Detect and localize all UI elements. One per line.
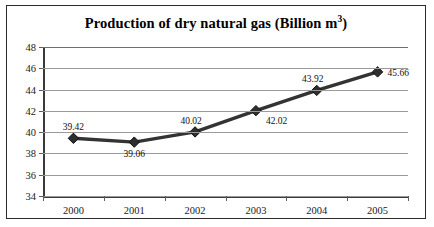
data-label-2002: 40.02 <box>180 116 201 126</box>
gridline-38 <box>43 153 408 154</box>
data-point-marker <box>68 133 78 143</box>
y-axis-label-40: 40 <box>26 127 37 138</box>
x-axis-label-2000: 2000 <box>63 205 84 216</box>
chart-title-text: Production of dry natural gas (Billion m <box>85 15 338 31</box>
chart-title-tail: ) <box>342 15 347 31</box>
data-point-marker <box>129 137 139 147</box>
data-label-2000: 39.42 <box>63 122 84 132</box>
y-axis-label-48: 48 <box>26 42 37 53</box>
x-tick-6 <box>408 196 409 201</box>
gridline-46 <box>43 68 408 69</box>
y-axis-label-36: 36 <box>26 169 37 180</box>
y-tick-42 <box>39 111 43 112</box>
x-axis-label-2005: 2005 <box>367 205 388 216</box>
y-tick-40 <box>39 132 43 133</box>
data-label-2001: 39.06 <box>124 149 145 159</box>
y-tick-38 <box>39 153 43 154</box>
data-label-2003: 42.02 <box>266 116 287 126</box>
gridline-40 <box>43 132 408 133</box>
x-axis-label-2004: 2004 <box>306 205 327 216</box>
gridline-48 <box>43 47 408 48</box>
plot-area: 4846444240383634200020012002200320042005… <box>43 47 408 196</box>
y-axis-label-44: 44 <box>26 84 37 95</box>
x-tick-2 <box>165 196 166 201</box>
y-axis-label-38: 38 <box>26 148 37 159</box>
x-tick-0 <box>43 196 44 201</box>
x-tick-5 <box>347 196 348 201</box>
y-tick-46 <box>39 68 43 69</box>
x-axis-label-2002: 2002 <box>185 205 206 216</box>
x-tick-4 <box>286 196 287 201</box>
y-axis-label-34: 34 <box>26 191 37 202</box>
y-axis-label-46: 46 <box>26 63 37 74</box>
gridline-36 <box>43 175 408 176</box>
y-tick-44 <box>39 90 43 91</box>
x-tick-3 <box>226 196 227 201</box>
data-label-2005: 45.66 <box>388 68 409 78</box>
x-tick-1 <box>104 196 105 201</box>
chart-title: Production of dry natural gas (Billion m… <box>7 15 425 32</box>
y-axis-label-42: 42 <box>26 105 37 116</box>
gridline-42 <box>43 111 408 112</box>
y-tick-48 <box>39 47 43 48</box>
x-axis-label-2003: 2003 <box>245 205 266 216</box>
y-tick-36 <box>39 175 43 176</box>
chart-frame: Production of dry natural gas (Billion m… <box>6 5 426 219</box>
line-series <box>43 47 408 196</box>
data-label-2004: 43.92 <box>302 74 323 84</box>
x-axis-label-2001: 2001 <box>124 205 145 216</box>
gridline-44 <box>43 90 408 91</box>
